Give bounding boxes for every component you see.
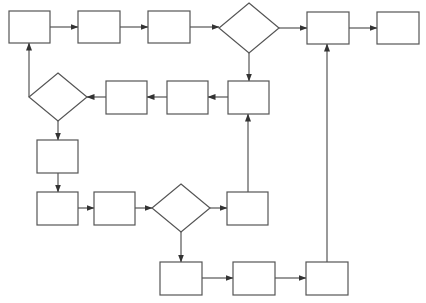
flowchart-diagram: [0, 0, 426, 303]
diamond-shape: [219, 3, 279, 53]
rectangle-shape: [160, 262, 202, 295]
process-node-p14[interactable]: [233, 262, 275, 295]
decision-node-d3[interactable]: [152, 184, 210, 232]
process-node-p8[interactable]: [106, 81, 147, 114]
process-node-p15[interactable]: [306, 262, 348, 295]
process-node-p6[interactable]: [228, 81, 269, 114]
rectangle-shape: [148, 11, 190, 43]
process-node-p2[interactable]: [78, 11, 120, 43]
decision-node-d1[interactable]: [219, 3, 279, 53]
process-node-p5[interactable]: [377, 12, 419, 44]
process-node-p10[interactable]: [37, 192, 78, 225]
rectangle-shape: [9, 11, 50, 43]
rectangle-shape: [307, 12, 349, 44]
rectangle-shape: [377, 12, 419, 44]
rectangle-shape: [106, 81, 147, 114]
process-node-p13[interactable]: [160, 262, 202, 295]
process-node-p7[interactable]: [167, 81, 208, 114]
process-node-p4[interactable]: [307, 12, 349, 44]
rectangle-shape: [227, 192, 268, 225]
flowchart-canvas: [0, 0, 426, 303]
process-node-p9[interactable]: [37, 140, 78, 173]
nodes-layer: [9, 3, 419, 295]
rectangle-shape: [167, 81, 208, 114]
process-node-p11[interactable]: [94, 192, 135, 225]
edges-layer: [29, 27, 377, 278]
process-node-p12[interactable]: [227, 192, 268, 225]
rectangle-shape: [37, 140, 78, 173]
process-node-p3[interactable]: [148, 11, 190, 43]
rectangle-shape: [78, 11, 120, 43]
diamond-shape: [29, 73, 87, 121]
rectangle-shape: [228, 81, 269, 114]
rectangle-shape: [233, 262, 275, 295]
process-node-p1[interactable]: [9, 11, 50, 43]
rectangle-shape: [94, 192, 135, 225]
rectangle-shape: [37, 192, 78, 225]
diamond-shape: [152, 184, 210, 232]
decision-node-d2[interactable]: [29, 73, 87, 121]
rectangle-shape: [306, 262, 348, 295]
